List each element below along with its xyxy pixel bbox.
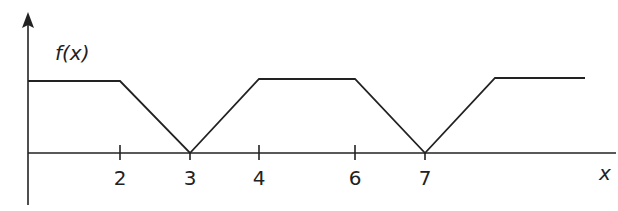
tick-label-7: 7 bbox=[419, 166, 432, 190]
function-line bbox=[28, 78, 585, 153]
function-graph: 2 3 4 6 7 f(x) x bbox=[0, 0, 618, 211]
tick-label-3: 3 bbox=[184, 166, 197, 190]
x-axis-label: x bbox=[598, 161, 611, 185]
tick-label-2: 2 bbox=[114, 166, 127, 190]
tick-label-6: 6 bbox=[349, 166, 362, 190]
y-axis-label: f(x) bbox=[55, 41, 89, 65]
tick-label-4: 4 bbox=[253, 166, 266, 190]
